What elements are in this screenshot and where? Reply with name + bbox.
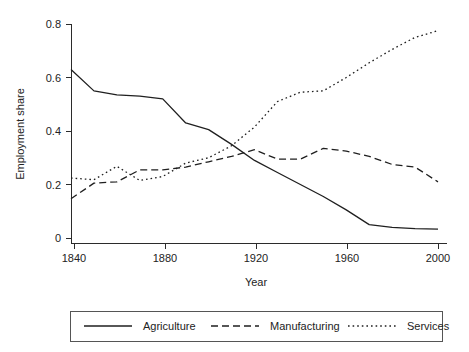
x-tick-label-2000: 2000 <box>426 252 450 264</box>
chart-background <box>0 0 469 352</box>
y-tick-label-0: 0 <box>55 232 61 244</box>
x-tick-label-1840: 1840 <box>62 252 86 264</box>
y-tick-label-0.6: 0.6 <box>46 72 61 84</box>
legend-label-manufacturing: Manufacturing <box>270 320 340 332</box>
y-axis-title: Employment share <box>14 88 26 180</box>
x-tick-label-1920: 1920 <box>244 252 268 264</box>
y-tick-label-0.4: 0.4 <box>46 125 61 137</box>
y-tick-label-0.8: 0.8 <box>46 18 61 30</box>
employment-share-line-chart: 0.8 0.6 0.4 0.2 0 1840 1880 1920 1960 20… <box>0 0 469 352</box>
chart-figure: 0.8 0.6 0.4 0.2 0 1840 1880 1920 1960 20… <box>0 0 469 352</box>
legend-label-agriculture: Agriculture <box>143 320 196 332</box>
chart-legend: Agriculture Manufacturing Services <box>71 312 450 342</box>
legend-label-services: Services <box>407 320 450 332</box>
x-axis-title: Year <box>245 276 268 288</box>
x-tick-label-1880: 1880 <box>153 252 177 264</box>
y-tick-label-0.2: 0.2 <box>46 179 61 191</box>
x-tick-label-1960: 1960 <box>335 252 359 264</box>
